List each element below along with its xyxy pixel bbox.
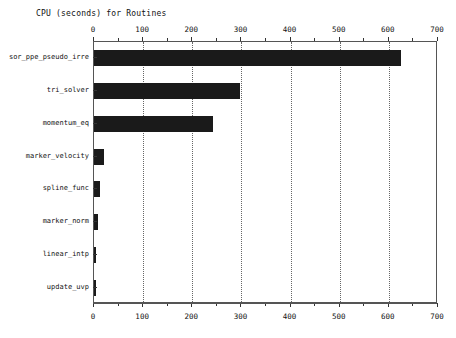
top-tick-label-100: 100 [135, 25, 149, 34]
category-tick-update_uvp [93, 287, 97, 288]
category-label-linear_intp: linear_intp [43, 250, 89, 258]
bottom-axis-spine [93, 303, 437, 304]
bottom-tick-label-200: 200 [185, 312, 199, 321]
bottom-tick-label-700: 700 [430, 312, 444, 321]
category-tick-spline_func [93, 188, 97, 189]
gridline-100 [143, 42, 144, 302]
category-tick-tri_solver [93, 90, 97, 91]
category-label-spline_func: spline_func [43, 184, 89, 192]
bar-update_uvp [94, 280, 96, 296]
bottom-tick-label-0: 0 [91, 312, 96, 321]
category-label-update_uvp: update_uvp [47, 283, 89, 291]
cpu-bar-chart: CPU (seconds) for Routines 0100200300400… [0, 0, 456, 338]
bar-sor_ppe_pseudo_irre [94, 50, 401, 66]
top-tick-label-400: 400 [283, 25, 297, 34]
bar-momentum_eq [94, 116, 213, 132]
category-tick-marker_velocity [93, 156, 97, 157]
bar-linear_intp [94, 247, 96, 263]
top-tick-label-0: 0 [91, 25, 96, 34]
top-tick-700 [437, 37, 438, 41]
bar-marker_norm [94, 214, 98, 230]
gridline-600 [389, 42, 390, 302]
gridline-400 [291, 42, 292, 302]
category-label-tri_solver: tri_solver [47, 86, 89, 94]
chart-title: CPU (seconds) for Routines [36, 9, 166, 18]
category-label-momentum_eq: momentum_eq [43, 119, 89, 127]
bottom-tick-label-400: 400 [283, 312, 297, 321]
category-tick-momentum_eq [93, 123, 97, 124]
category-label-sor_ppe_pseudo_irre: sor_ppe_pseudo_irre [9, 53, 89, 61]
plot-area [93, 41, 437, 303]
bottom-tick-label-500: 500 [332, 312, 346, 321]
category-label-marker_velocity: marker_velocity [26, 152, 89, 160]
gridline-500 [340, 42, 341, 302]
bar-spline_func [94, 181, 100, 197]
gridline-300 [241, 42, 242, 302]
bottom-tick-700 [437, 303, 438, 307]
top-tick-label-200: 200 [185, 25, 199, 34]
bar-tri_solver [94, 83, 240, 99]
top-tick-label-700: 700 [430, 25, 444, 34]
bottom-tick-label-300: 300 [234, 312, 248, 321]
category-label-marker_norm: marker_norm [43, 217, 89, 225]
y-axis-category-labels: sor_ppe_pseudo_irretri_solvermomentum_eq… [0, 41, 89, 303]
bar-marker_velocity [94, 149, 104, 165]
bottom-tick-label-600: 600 [381, 312, 395, 321]
top-tick-label-500: 500 [332, 25, 346, 34]
top-tick-label-300: 300 [234, 25, 248, 34]
category-tick-sor_ppe_pseudo_irre [93, 57, 97, 58]
category-tick-marker_norm [93, 221, 97, 222]
bottom-tick-label-100: 100 [135, 312, 149, 321]
gridline-200 [192, 42, 193, 302]
top-tick-label-600: 600 [381, 25, 395, 34]
category-tick-linear_intp [93, 254, 97, 255]
